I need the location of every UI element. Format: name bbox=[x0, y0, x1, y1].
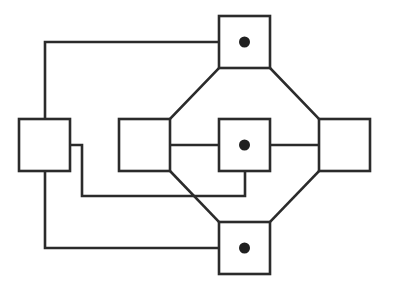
node-center bbox=[219, 119, 270, 171]
node-top bbox=[219, 16, 270, 68]
edge-top-to-right bbox=[270, 68, 319, 119]
dot-marker-icon bbox=[239, 140, 250, 151]
dot-marker-icon bbox=[239, 243, 250, 254]
node-mid-left bbox=[119, 119, 170, 171]
node-left bbox=[19, 119, 70, 171]
node-box bbox=[19, 119, 70, 171]
node-box bbox=[319, 119, 370, 171]
edge-midleft-to-top bbox=[170, 68, 219, 119]
edge-left-to-bottom bbox=[45, 171, 219, 248]
edge-left-to-top bbox=[45, 42, 219, 119]
node-box bbox=[119, 119, 170, 171]
block-diagram bbox=[0, 0, 394, 292]
edges-group bbox=[45, 42, 319, 248]
node-bottom bbox=[219, 222, 270, 274]
node-right bbox=[319, 119, 370, 171]
dot-marker-icon bbox=[239, 37, 250, 48]
edge-right-to-bottom bbox=[270, 171, 319, 222]
